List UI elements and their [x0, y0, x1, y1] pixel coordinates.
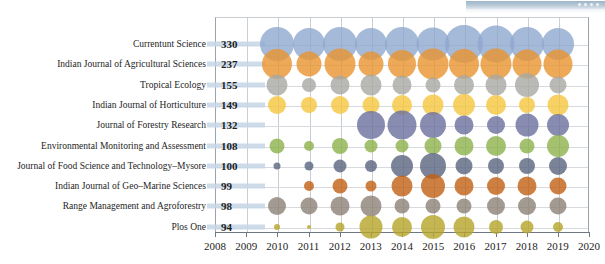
- bubble-marker[interactable]: [488, 158, 504, 174]
- bubble-marker[interactable]: [486, 95, 506, 115]
- bubble-marker[interactable]: [392, 217, 412, 237]
- bubble-marker[interactable]: [300, 198, 317, 215]
- bubble-marker[interactable]: [360, 196, 381, 217]
- bubble-marker[interactable]: [515, 114, 538, 137]
- y-axis-category-label: Range Management and Agroforestry: [63, 201, 206, 211]
- bubble-marker[interactable]: [301, 97, 317, 113]
- bubble-marker[interactable]: [520, 220, 533, 233]
- x-axis-tick: [340, 232, 341, 237]
- y-axis-category-label: Indian Journal of Horticulture: [92, 100, 206, 110]
- bubble-marker[interactable]: [519, 158, 535, 174]
- bubble-marker[interactable]: [358, 52, 383, 77]
- bubble-marker[interactable]: [392, 176, 413, 197]
- bubble-marker[interactable]: [302, 78, 316, 92]
- bubble-marker[interactable]: [396, 139, 409, 152]
- bubble-marker[interactable]: [391, 155, 413, 177]
- x-axis-tick: [215, 232, 216, 237]
- bubble-marker[interactable]: [549, 198, 566, 215]
- bubble-marker[interactable]: [307, 225, 311, 229]
- bubble-marker[interactable]: [274, 224, 280, 230]
- bubble-marker[interactable]: [270, 138, 285, 153]
- bubble-marker[interactable]: [365, 181, 376, 192]
- y-axis-category-label: Journal of Forestry Research: [97, 120, 206, 130]
- bubble-marker[interactable]: [388, 50, 416, 78]
- x-axis-tick-label: 2015: [422, 240, 444, 252]
- bubble-marker[interactable]: [549, 157, 567, 175]
- bubble-marker[interactable]: [454, 75, 474, 95]
- bubble-marker[interactable]: [330, 75, 349, 94]
- bubble-marker[interactable]: [487, 116, 505, 134]
- x-axis-tick: [277, 232, 278, 237]
- bubble-marker[interactable]: [426, 199, 441, 214]
- bubble-marker[interactable]: [393, 75, 412, 94]
- bubble-marker[interactable]: [425, 137, 442, 154]
- bubble-marker[interactable]: [457, 199, 472, 214]
- bubble-marker[interactable]: [359, 215, 382, 238]
- bubble-marker[interactable]: [388, 111, 417, 140]
- bubble-marker[interactable]: [547, 94, 568, 115]
- bubble-marker[interactable]: [420, 112, 446, 138]
- bubble-marker[interactable]: [421, 215, 445, 239]
- bubble-marker[interactable]: [330, 197, 349, 216]
- bubble-marker[interactable]: [296, 52, 321, 77]
- bubble-marker[interactable]: [547, 135, 569, 157]
- bubble-marker[interactable]: [454, 216, 475, 237]
- bubble-marker[interactable]: [487, 177, 505, 195]
- bubble-marker[interactable]: [365, 160, 377, 172]
- bubble-marker[interactable]: [487, 197, 505, 215]
- bubble-marker[interactable]: [418, 49, 449, 80]
- bubble-marker[interactable]: [455, 116, 474, 135]
- bubble-marker[interactable]: [304, 181, 314, 191]
- window-titlebar[interactable]: [466, 1, 605, 9]
- category-total-value: 149: [221, 99, 238, 111]
- bubble-marker[interactable]: [519, 138, 534, 153]
- bubble-marker[interactable]: [426, 77, 441, 92]
- bubble-marker[interactable]: [517, 177, 536, 196]
- bubble-marker[interactable]: [456, 157, 473, 174]
- bubble-marker[interactable]: [453, 94, 475, 116]
- category-highlight-band: [207, 224, 265, 229]
- bubble-marker[interactable]: [455, 136, 474, 155]
- bubble-marker[interactable]: [543, 50, 572, 79]
- x-axis-tick: [309, 232, 310, 237]
- bubble-marker[interactable]: [518, 197, 536, 215]
- category-total-value: 100: [221, 160, 238, 172]
- x-axis-tick-label: 2017: [485, 240, 507, 252]
- bubble-marker[interactable]: [553, 222, 563, 232]
- bubble-marker[interactable]: [515, 73, 539, 97]
- bubble-marker[interactable]: [485, 74, 506, 95]
- bubble-marker[interactable]: [395, 199, 410, 214]
- bubble-marker[interactable]: [519, 97, 535, 113]
- bubble-marker[interactable]: [547, 114, 569, 136]
- bubble-marker[interactable]: [304, 161, 313, 170]
- y-axis-category-label: Indian Journal of Agricultural Sciences: [57, 59, 206, 69]
- bubble-marker[interactable]: [360, 74, 381, 95]
- bubble-marker[interactable]: [549, 178, 566, 195]
- bubble-marker[interactable]: [331, 96, 349, 114]
- bubble-marker[interactable]: [304, 141, 314, 151]
- bubble-marker[interactable]: [364, 139, 377, 152]
- bubble-marker[interactable]: [421, 174, 445, 198]
- x-axis-tick-label: 2014: [391, 240, 413, 252]
- bubble-marker[interactable]: [333, 159, 346, 172]
- category-total-value: 99: [221, 180, 232, 192]
- category-total-value: 330: [221, 38, 238, 50]
- bubble-marker[interactable]: [357, 111, 385, 139]
- x-axis-tick-label: 2008: [204, 240, 226, 252]
- bubble-marker[interactable]: [274, 162, 281, 169]
- bubble-marker[interactable]: [335, 222, 344, 231]
- bubble-marker[interactable]: [549, 76, 566, 93]
- bubble-marker[interactable]: [332, 138, 348, 154]
- bubble-marker[interactable]: [268, 96, 286, 114]
- x-axis-tick-label: 2012: [329, 240, 351, 252]
- bubble-marker[interactable]: [455, 177, 474, 196]
- bubble-marker[interactable]: [489, 220, 503, 234]
- bubble-marker[interactable]: [332, 179, 347, 194]
- x-axis-tick: [246, 232, 247, 237]
- y-axis-category-label: Plos One: [171, 222, 206, 232]
- bubble-marker[interactable]: [486, 136, 506, 156]
- category-total-value: 132: [221, 119, 238, 131]
- bubble-marker[interactable]: [268, 197, 286, 215]
- bubble-marker[interactable]: [267, 74, 288, 95]
- y-axis-category-label: Journal of Food Science and Technology–M…: [17, 161, 206, 171]
